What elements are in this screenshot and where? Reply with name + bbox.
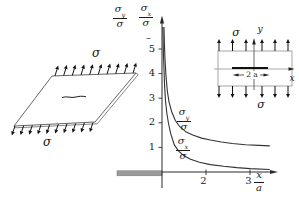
stress-arrow-up [244, 39, 248, 51]
x-axis-label-x-over-a: x a [251, 170, 267, 194]
x-axis-arrowhead-icon [270, 170, 278, 174]
y-axis-label-sigma-y-over-sigma: σy σ [108, 4, 132, 30]
y-tick-4: 4 [145, 68, 155, 78]
fraction-numerator: σy [113, 4, 128, 19]
dimension-arrow-left-icon [233, 74, 239, 77]
stress-arrow-up [286, 39, 290, 51]
stress-arrow-up [217, 39, 221, 51]
inset-sigma-bottom-label: σ [254, 99, 268, 110]
y-axis-arrowhead-icon [160, 16, 164, 24]
fracture-mechanics-figure: σ σ σy σ σx σ – 5 4 3 2 1 2 3 x a σy σ σ… [0, 0, 299, 201]
stress-arrow-up [124, 63, 128, 74]
stress-arrow-up [90, 64, 94, 75]
stress-arrow-up [260, 39, 264, 51]
fraction-denominator: σ [181, 122, 188, 133]
plate-thickness-edge [14, 73, 138, 128]
stress-arrow-up [231, 39, 235, 51]
stress-arrow-up [107, 64, 111, 75]
axis-dash-mark: – [143, 32, 154, 43]
left-plate-sigma-bottom-label: σ [39, 136, 55, 148]
fraction-numerator: σx [139, 3, 154, 18]
fraction-denominator: σ [180, 151, 187, 162]
x-tick-2: 2 [198, 176, 209, 186]
fraction-numerator: σy [177, 107, 192, 122]
stress-arrow-down [286, 86, 290, 98]
fraction-denominator: σ [143, 18, 150, 29]
crack-length-2a-label: 2 a [244, 71, 260, 79]
stress-arrow-down [11, 126, 15, 136]
dimension-arrow-right-icon [264, 74, 270, 77]
y-tick-5: 5 [145, 44, 155, 54]
stress-arrow-up [55, 65, 59, 76]
stress-arrow-up [116, 63, 120, 74]
y-axis-ticks [159, 49, 163, 147]
inset-sigma-top-label: σ [229, 27, 243, 38]
stress-arrow-down [244, 86, 248, 98]
fraction-denominator: σ [117, 19, 124, 30]
stress-arrow-down [20, 126, 24, 136]
y-tick-2: 2 [145, 117, 155, 127]
inset-y-axis-letter: y [255, 25, 265, 34]
left-plate-sigma-top-label: σ [88, 47, 104, 59]
fraction-numerator: x [254, 170, 264, 183]
stress-arrow-up [273, 39, 277, 51]
stress-arrow-up [81, 65, 85, 76]
fraction-denominator: a [256, 183, 262, 194]
stress-arrow-up [64, 65, 68, 76]
stress-arrow-down [260, 86, 264, 98]
fraction-numerator: σx [176, 136, 191, 151]
stress-arrow-down [273, 86, 277, 98]
stress-arrow-down [231, 86, 235, 98]
stress-arrow-up [133, 63, 137, 73]
flat-plate-drawing [11, 63, 138, 136]
inset-y-axis-arrowhead-icon [252, 38, 256, 45]
y-axis-label-sigma-x-over-sigma: σx σ [134, 3, 158, 29]
inset-x-axis-arrowhead-icon [289, 67, 295, 70]
curve-label-sigma-y-over-sigma: σy σ [174, 107, 194, 133]
plate-crack [62, 96, 86, 97]
stress-arrow-up [72, 65, 76, 76]
y-tick-1: 1 [145, 142, 155, 152]
y-tick-3: 3 [145, 93, 155, 103]
curve-label-sigma-x-over-sigma: σx σ [173, 136, 193, 162]
inset-crack-geometry [214, 38, 295, 98]
stress-arrow-up [98, 64, 102, 75]
inset-x-axis-letter: x [287, 74, 297, 83]
stress-arrow-down [217, 86, 221, 98]
crack-face-bar [117, 171, 162, 176]
